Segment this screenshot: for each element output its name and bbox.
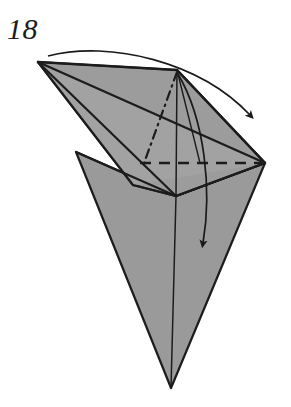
origami-diagram-canvas (0, 0, 291, 407)
step-number-label: 18 (7, 14, 38, 44)
origami-figure: 18 (0, 0, 291, 407)
apex-vertical-crease (176, 70, 177, 196)
paper-facets (38, 62, 265, 388)
